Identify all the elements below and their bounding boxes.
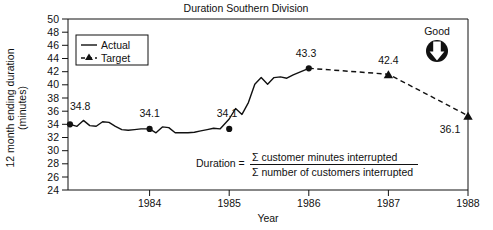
x-tick-label: 1986 bbox=[297, 197, 321, 209]
data-point-label-5: 42.4 bbox=[378, 54, 399, 66]
x-tick-label: 1987 bbox=[377, 197, 401, 209]
data-point-label-4: 43.3 bbox=[296, 47, 317, 59]
y-tick-label: 50 bbox=[47, 13, 59, 25]
data-point-label-6: 36.1 bbox=[440, 123, 461, 135]
formula-numerator: Σ customer minutes interrupted bbox=[252, 151, 398, 163]
y-axis-title-line2: (minutes) bbox=[16, 86, 28, 130]
y-tick-label: 24 bbox=[47, 184, 59, 196]
data-point-marker bbox=[67, 121, 73, 127]
formula-lead: Duration = bbox=[196, 157, 245, 169]
data-point-marker bbox=[306, 65, 312, 71]
y-tick-label: 38 bbox=[47, 92, 59, 104]
x-axis-title: Year bbox=[257, 212, 279, 224]
y-tick-label: 48 bbox=[47, 26, 59, 38]
down-arrow-circle-icon bbox=[426, 40, 448, 62]
x-tick-label: 1984 bbox=[138, 197, 162, 209]
duration-chart: Duration Southern Division 12 month endi… bbox=[0, 0, 493, 230]
y-tick-label: 40 bbox=[47, 78, 59, 90]
chart-title: Duration Southern Division bbox=[184, 2, 309, 14]
y-tick-label: 32 bbox=[47, 131, 59, 143]
y-tick-label: 34 bbox=[47, 118, 59, 130]
y-tick-label: 30 bbox=[47, 144, 59, 156]
legend-label-target: Target bbox=[101, 52, 130, 64]
y-tick-label: 26 bbox=[47, 171, 59, 183]
y-tick-label: 46 bbox=[47, 39, 59, 51]
data-point-label-1: 34.8 bbox=[70, 100, 91, 112]
data-point-label-3: 34.1 bbox=[217, 107, 238, 119]
y-tick-label: 44 bbox=[47, 52, 59, 64]
legend-label-actual: Actual bbox=[101, 39, 130, 51]
y-tick-label: 36 bbox=[47, 105, 59, 117]
y-tick-label: 28 bbox=[47, 157, 59, 169]
chart-background bbox=[0, 0, 493, 230]
data-point-marker bbox=[226, 126, 232, 132]
formula-denominator: Σ number of customers interrupted bbox=[252, 166, 413, 178]
x-tick-label: 1985 bbox=[218, 197, 242, 209]
y-tick-label: 42 bbox=[47, 65, 59, 77]
x-tick-label: 1988 bbox=[456, 197, 480, 209]
chart-legend: Actual Target bbox=[76, 35, 148, 65]
data-point-marker bbox=[147, 126, 153, 132]
data-point-label-2: 34.1 bbox=[139, 107, 160, 119]
y-axis-title-line1: 12 month ending duration bbox=[4, 48, 16, 167]
chart-svg: Duration Southern Division 12 month endi… bbox=[0, 0, 493, 230]
good-label: Good bbox=[424, 25, 450, 37]
